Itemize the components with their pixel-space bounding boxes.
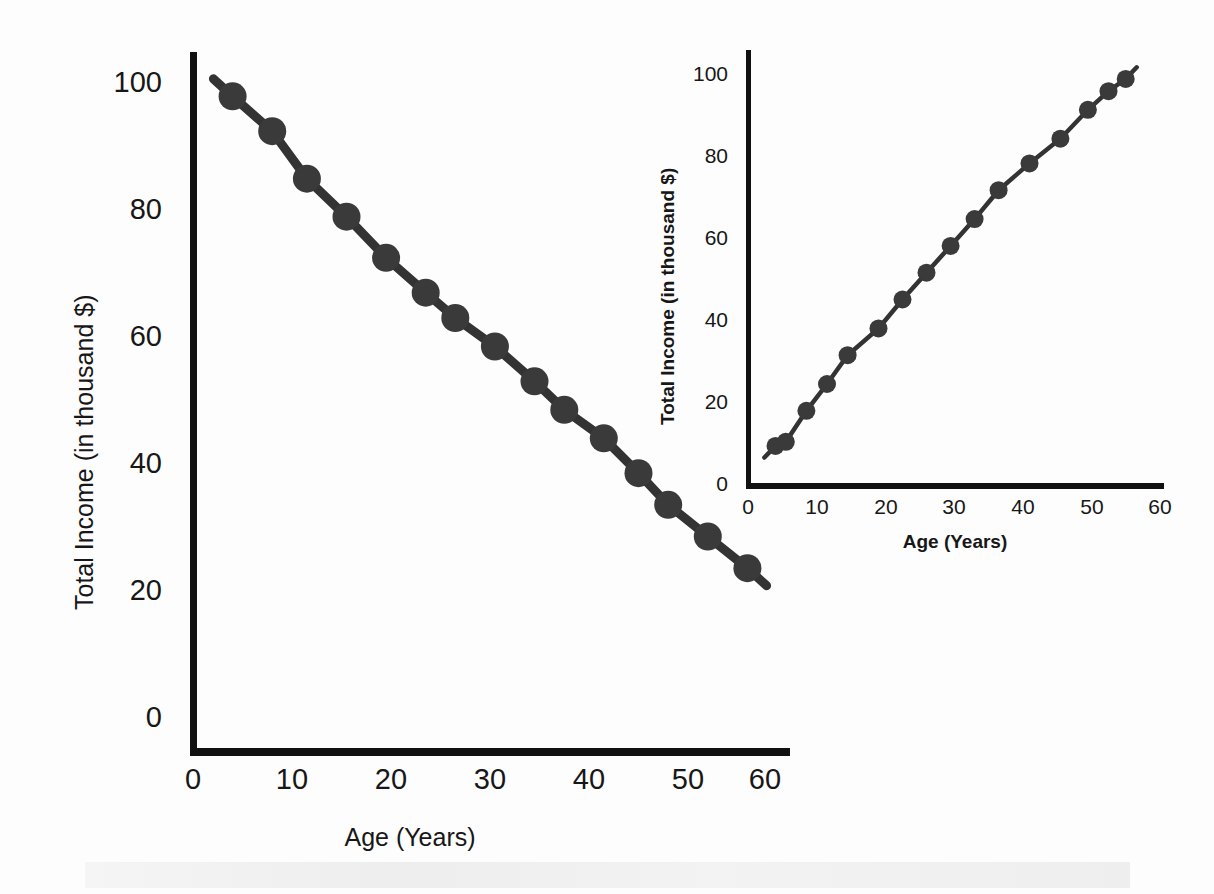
data-point (258, 117, 286, 145)
data-point (1117, 70, 1135, 88)
data-point (797, 402, 815, 420)
inset-plot-area (748, 50, 1164, 485)
data-point (481, 333, 509, 361)
data-point (894, 291, 912, 309)
main-xtick-50: 50 (658, 765, 718, 794)
data-point (966, 210, 984, 228)
figure-canvas: 100 80 60 40 20 0 0 10 20 30 40 50 60 Ag… (0, 0, 1214, 894)
data-point (521, 367, 549, 395)
main-y-axis-title: Total Income (in thousand $) (72, 295, 97, 610)
trend-line (764, 67, 1136, 457)
inset-ytick-20: 20 (678, 391, 728, 412)
data-point (942, 237, 960, 255)
data-point (293, 165, 321, 193)
inset-xtick-30: 30 (931, 496, 977, 517)
inset-ytick-80: 80 (678, 145, 728, 166)
main-xtick-10: 10 (262, 765, 322, 794)
data-point (333, 203, 361, 231)
main-x-axis-title: Age (Years) (290, 825, 530, 850)
data-point (1021, 154, 1039, 172)
data-point (818, 375, 836, 393)
data-point (1100, 82, 1118, 100)
inset-chart-panel: 100 80 60 40 20 0 0 10 20 30 40 50 60 Ag… (620, 20, 1214, 590)
inset-ytick-0: 0 (678, 473, 728, 494)
inset-xtick-40: 40 (1000, 496, 1046, 517)
data-point (219, 82, 247, 110)
data-point (1051, 130, 1069, 148)
data-point (412, 279, 440, 307)
inset-y-axis-title: Total Income (in thousand $) (658, 168, 677, 425)
inset-xtick-50: 50 (1069, 496, 1115, 517)
data-point (590, 424, 618, 452)
main-ytick-80: 80 (100, 195, 162, 224)
inset-ytick-40: 40 (678, 309, 728, 330)
data-point (777, 433, 795, 451)
data-point (1079, 101, 1097, 119)
inset-ytick-60: 60 (678, 227, 728, 248)
inset-xtick-10: 10 (794, 496, 840, 517)
scan-artifact-band (85, 862, 1130, 888)
data-point (870, 319, 888, 337)
main-ytick-0: 0 (100, 703, 162, 732)
main-xtick-0: 0 (163, 765, 223, 794)
inset-xtick-20: 20 (863, 496, 909, 517)
inset-ytick-100: 100 (678, 63, 728, 84)
inset-x-axis-title: Age (Years) (855, 532, 1055, 551)
data-point (550, 396, 578, 424)
main-xtick-20: 20 (361, 765, 421, 794)
data-point (441, 304, 469, 332)
main-xtick-30: 30 (460, 765, 520, 794)
main-ytick-60: 60 (100, 322, 162, 351)
data-point (839, 346, 857, 364)
main-xtick-40: 40 (559, 765, 619, 794)
data-point (990, 181, 1008, 199)
inset-xtick-60: 60 (1137, 496, 1183, 517)
data-point (372, 244, 400, 272)
main-xtick-60: 60 (735, 765, 795, 794)
main-ytick-40: 40 (100, 449, 162, 478)
main-ytick-20: 20 (100, 576, 162, 605)
data-point (918, 264, 936, 282)
main-ytick-100: 100 (100, 68, 162, 97)
inset-xtick-0: 0 (725, 496, 771, 517)
